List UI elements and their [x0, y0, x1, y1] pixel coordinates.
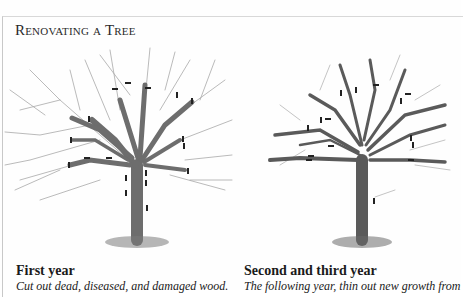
- pruned-tree-icon: [240, 40, 461, 250]
- page-title: Renovating a Tree: [15, 22, 136, 39]
- caption-heading: First year: [16, 263, 228, 279]
- caption-second-third-year: Second and third year The following year…: [244, 263, 460, 293]
- caption-first-year: First year Cut out dead, diseased, and d…: [16, 263, 228, 293]
- illustration-first-year-tree: [0, 40, 235, 250]
- overgrown-tree-icon: [0, 40, 235, 250]
- caption-text: Cut out dead, diseased, and damaged wood…: [16, 279, 228, 293]
- illustration-second-third-year-tree: [240, 40, 461, 250]
- caption-heading: Second and third year: [244, 263, 460, 279]
- caption-text: The following year, thin out new growth …: [244, 279, 460, 293]
